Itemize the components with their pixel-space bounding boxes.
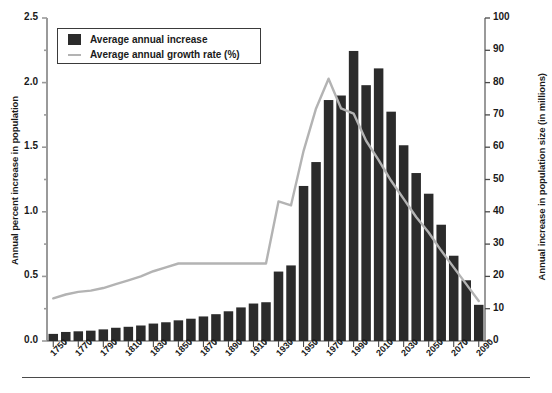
right-tick-60: 60: [493, 140, 523, 151]
bar-1900: [236, 307, 246, 341]
bar-2040: [411, 173, 421, 341]
right-tick-10: 10: [493, 302, 523, 313]
bar-1850: [174, 320, 184, 341]
right-tick-20: 20: [493, 269, 523, 280]
chart-legend: Average annual increase Average annual g…: [57, 28, 261, 64]
bar-1750: [49, 334, 59, 341]
right-tick-100: 100: [493, 11, 523, 22]
legend-line-swatch-icon: [68, 54, 81, 56]
population-growth-chart: Annual percent increase in population An…: [0, 0, 552, 393]
bar-1990: [349, 51, 359, 341]
right-tick-40: 40: [493, 205, 523, 216]
bar-2060: [436, 225, 446, 341]
right-tick-90: 90: [493, 43, 523, 54]
bar-2090: [474, 305, 484, 341]
legend-label-line: Average annual growth rate (%): [90, 49, 240, 60]
right-tick-70: 70: [493, 108, 523, 119]
bar-1970: [324, 100, 334, 341]
bar-2050: [424, 194, 434, 341]
bar-1810: [124, 327, 134, 341]
footer-divider: [22, 377, 530, 378]
bar-1960: [311, 162, 321, 341]
bar-2030: [399, 145, 409, 341]
bar-1950: [299, 186, 309, 341]
bar-1790: [99, 329, 109, 341]
left-tick-1.0: 1.0: [8, 205, 38, 216]
bar-1930: [274, 272, 284, 341]
bar-1910: [249, 304, 259, 341]
bar-1940: [286, 265, 296, 341]
legend-bar-swatch-icon: [68, 34, 81, 45]
right-tick-30: 30: [493, 237, 523, 248]
left-tick-2.5: 2.5: [8, 11, 38, 22]
bar-1980: [336, 96, 346, 341]
bar-1770: [74, 331, 84, 341]
bar-2020: [386, 112, 396, 341]
left-tick-0.5: 0.5: [8, 269, 38, 280]
bar-1920: [261, 302, 271, 341]
right-tick-80: 80: [493, 76, 523, 87]
bar-2010: [374, 68, 384, 341]
right-tick-50: 50: [493, 173, 523, 184]
right-tick-0: 0: [493, 334, 523, 345]
left-tick-2.0: 2.0: [8, 76, 38, 87]
legend-label-bar: Average annual increase: [90, 34, 207, 45]
bar-1830: [149, 324, 159, 341]
bar-1890: [224, 311, 234, 341]
left-tick-1.5: 1.5: [8, 140, 38, 151]
bar-1870: [199, 316, 209, 341]
bar-2000: [361, 85, 371, 341]
left-tick-0.0: 0.0: [8, 334, 38, 345]
legend-item-average-annual-growth-rate: Average annual growth rate (%): [68, 47, 260, 62]
legend-item-average-annual-increase: Average annual increase: [68, 32, 260, 47]
